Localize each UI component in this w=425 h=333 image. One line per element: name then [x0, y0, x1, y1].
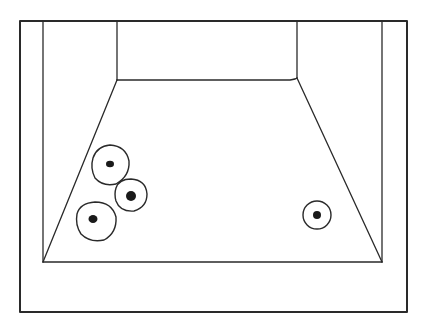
- cell-4: [303, 201, 331, 229]
- cell-2: [115, 179, 147, 211]
- floor-left-edge: [43, 80, 117, 262]
- cell-1: [92, 145, 129, 185]
- cell-nucleus: [89, 215, 98, 223]
- outer-frame: [20, 21, 407, 312]
- back-wall-floor-edge: [117, 78, 297, 80]
- cell-nucleus: [313, 211, 321, 219]
- cell-3: [77, 202, 117, 241]
- room-diagram: [0, 0, 425, 333]
- cell-nucleus: [106, 161, 114, 167]
- floor-right-edge: [297, 78, 382, 262]
- cell-nucleus: [126, 191, 136, 201]
